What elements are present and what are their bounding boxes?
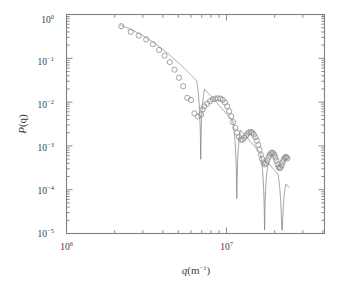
x-axis-title: q(m−1) [182, 264, 211, 277]
y-axis-title: P(q) [16, 114, 29, 135]
scattering-form-factor-chart: 100 10−1 10−2 10−3 10−4 10−5 106 107 P(q… [0, 0, 341, 289]
